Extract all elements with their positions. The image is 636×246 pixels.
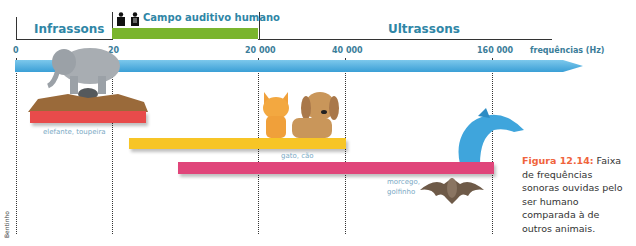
figure-caption: Figura 12.14: Faixa de frequências sonor… xyxy=(522,154,630,235)
bat-illustration xyxy=(420,174,484,206)
tick-160000: 160 000 xyxy=(477,46,513,55)
bat-dolphin-label: morcego, golfinho xyxy=(387,177,423,197)
elephant-mole-range-bar xyxy=(30,111,146,123)
infrasound-label: Infrassons xyxy=(34,22,104,36)
human-icon xyxy=(115,11,127,25)
ultrasound-label: Ultrassons xyxy=(388,22,460,36)
cat-dog-illustration xyxy=(258,88,348,138)
bat-dolphin-range-bar xyxy=(178,162,494,174)
figure-caption-text: Faixa de frequências sonoras ouvidas pel… xyxy=(522,155,623,234)
illustrator-credit: Bentinho xyxy=(3,211,10,238)
axis-label: frequências (Hz) xyxy=(530,46,605,55)
dolphin-illustration xyxy=(450,108,530,166)
tick-0: 0 xyxy=(13,46,19,55)
gridline-0 xyxy=(16,58,17,234)
elephant-mole-illustration xyxy=(28,44,148,112)
elephant-mole-label: elefante, toupeira xyxy=(43,127,106,137)
tick-20000: 20 000 xyxy=(245,46,276,55)
human-range-label: Campo auditivo humano xyxy=(143,12,280,23)
cat-dog-range-bar xyxy=(129,138,346,149)
human-range-bar xyxy=(112,28,258,39)
tick-40000: 40 000 xyxy=(332,46,363,55)
ultrasound-bracket-line xyxy=(258,39,552,40)
cat-dog-label: gato, cão xyxy=(281,151,314,161)
human-icon xyxy=(129,11,141,25)
figure-number: Figura 12.14: xyxy=(522,155,594,166)
